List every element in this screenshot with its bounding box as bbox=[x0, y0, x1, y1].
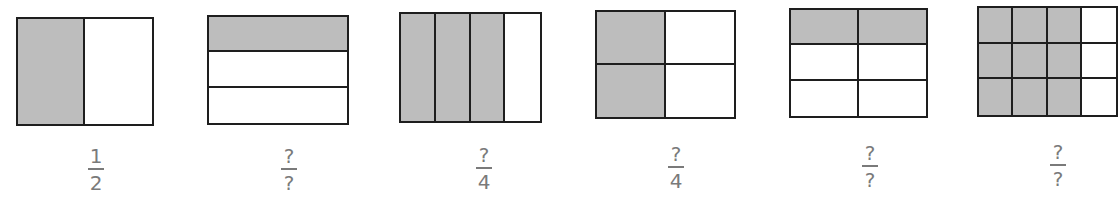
fraction-label-1: 1 2 bbox=[76, 146, 116, 193]
fraction-numerator: ? bbox=[269, 146, 309, 166]
shaded-part bbox=[1048, 8, 1082, 44]
fraction-numerator: ? bbox=[850, 143, 890, 163]
unshaded-part bbox=[859, 81, 927, 116]
fraction-denominator: 4 bbox=[656, 171, 696, 191]
fraction-label-4: ? 4 bbox=[656, 144, 696, 191]
shaded-part bbox=[1013, 79, 1047, 115]
fraction-model-5 bbox=[789, 8, 928, 118]
fraction-label-6: ? ? bbox=[1038, 142, 1078, 189]
fraction-model-6 bbox=[977, 6, 1118, 117]
shaded-part bbox=[436, 14, 471, 121]
shaded-part bbox=[859, 10, 927, 45]
shaded-part bbox=[471, 14, 506, 121]
fraction-model-1 bbox=[16, 17, 154, 126]
unshaded-part bbox=[505, 14, 540, 121]
unshaded-part bbox=[1082, 8, 1116, 44]
fraction-denominator: 4 bbox=[464, 172, 504, 192]
fraction-numerator: ? bbox=[1038, 142, 1078, 162]
shaded-part bbox=[979, 8, 1013, 44]
fraction-label-5: ? ? bbox=[850, 143, 890, 190]
fraction-bar bbox=[1050, 164, 1066, 166]
shaded-part bbox=[401, 14, 436, 121]
fraction-model-3 bbox=[399, 12, 542, 123]
fraction-denominator: ? bbox=[269, 173, 309, 193]
fraction-bar bbox=[862, 165, 878, 167]
unshaded-part bbox=[209, 88, 347, 123]
fraction-denominator: ? bbox=[1038, 169, 1078, 189]
shaded-part bbox=[1048, 79, 1082, 115]
fraction-bar bbox=[281, 168, 297, 170]
shaded-part bbox=[791, 10, 859, 45]
unshaded-part bbox=[85, 19, 152, 124]
shaded-part bbox=[979, 79, 1013, 115]
fraction-model-4 bbox=[595, 10, 736, 119]
unshaded-part bbox=[209, 52, 347, 87]
fraction-bar bbox=[88, 168, 104, 170]
fraction-label-2: ? ? bbox=[269, 146, 309, 193]
fraction-label-3: ? 4 bbox=[464, 145, 504, 192]
fraction-bar bbox=[668, 166, 684, 168]
shaded-part bbox=[1013, 8, 1047, 44]
shaded-part bbox=[979, 44, 1013, 80]
unshaded-part bbox=[1082, 79, 1116, 115]
fraction-numerator: ? bbox=[656, 144, 696, 164]
shaded-part bbox=[1013, 44, 1047, 80]
shaded-part bbox=[209, 17, 347, 52]
shaded-part bbox=[597, 12, 666, 65]
unshaded-part bbox=[666, 65, 735, 118]
fraction-denominator: 2 bbox=[76, 173, 116, 193]
fraction-denominator: ? bbox=[850, 170, 890, 190]
fraction-model-2 bbox=[207, 15, 349, 125]
fraction-numerator: ? bbox=[464, 145, 504, 165]
shaded-part bbox=[18, 19, 85, 124]
shaded-part bbox=[1048, 44, 1082, 80]
unshaded-part bbox=[791, 45, 859, 80]
fraction-bar bbox=[476, 167, 492, 169]
fraction-numerator: 1 bbox=[76, 146, 116, 166]
unshaded-part bbox=[791, 81, 859, 116]
shaded-part bbox=[597, 65, 666, 118]
unshaded-part bbox=[859, 45, 927, 80]
unshaded-part bbox=[666, 12, 735, 65]
unshaded-part bbox=[1082, 44, 1116, 80]
